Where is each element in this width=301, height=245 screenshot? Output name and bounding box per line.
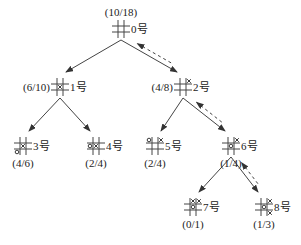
x-mark-icon bbox=[268, 211, 272, 215]
x-mark-icon bbox=[268, 199, 272, 203]
board-node-4 bbox=[87, 137, 105, 155]
x-mark-icon bbox=[94, 144, 98, 148]
board-node-3 bbox=[14, 137, 32, 155]
backprop-arrow-8-6 bbox=[242, 163, 258, 184]
o-mark-icon bbox=[15, 150, 19, 154]
board-node-2 bbox=[174, 78, 192, 96]
x-mark-icon bbox=[21, 144, 25, 148]
x-mark-icon bbox=[235, 138, 239, 142]
node-name-1: 1号 bbox=[70, 81, 87, 93]
board-node-1 bbox=[51, 78, 69, 96]
edge-2-5 bbox=[161, 98, 183, 131]
node-name-4: 4号 bbox=[106, 140, 123, 152]
edge-1-4 bbox=[60, 98, 90, 131]
o-mark-icon bbox=[229, 144, 233, 148]
board-node-0 bbox=[112, 20, 130, 38]
node-name-8: 8号 bbox=[274, 201, 291, 213]
node-name-6: 6号 bbox=[241, 140, 258, 152]
node-score-7: (0/1) bbox=[182, 218, 203, 230]
node-name-3: 3号 bbox=[33, 140, 50, 152]
edge-1-3 bbox=[29, 98, 60, 131]
node-name-0: 0号 bbox=[131, 23, 148, 35]
backprop-arrow-2-0 bbox=[137, 44, 171, 63]
node-score-6: (1/4) bbox=[220, 157, 241, 169]
game-tree-canvas bbox=[0, 0, 301, 245]
edge-2-6 bbox=[183, 98, 225, 131]
board-node-8 bbox=[255, 198, 273, 216]
node-score-1: (6/10) bbox=[23, 81, 50, 93]
edge-0-2 bbox=[121, 40, 177, 72]
edge-0-1 bbox=[66, 40, 121, 72]
node-name-7: 7号 bbox=[203, 201, 220, 213]
node-name-5: 5号 bbox=[165, 140, 182, 152]
board-node-7 bbox=[184, 198, 202, 216]
node-score-5: (2/4) bbox=[144, 157, 165, 169]
node-score-4: (2/4) bbox=[85, 157, 106, 169]
o-mark-icon bbox=[147, 138, 151, 142]
x-mark-icon bbox=[58, 85, 62, 89]
node-score-0: (10/18) bbox=[105, 6, 137, 18]
node-score-2: (4/8) bbox=[152, 81, 173, 93]
x-mark-icon bbox=[191, 199, 195, 203]
node-name-2: 2号 bbox=[193, 81, 210, 93]
x-mark-icon bbox=[197, 199, 201, 203]
o-mark-icon bbox=[191, 205, 195, 209]
o-mark-icon bbox=[88, 144, 92, 148]
x-mark-icon bbox=[187, 79, 191, 83]
o-mark-icon bbox=[262, 205, 266, 209]
tree-edges bbox=[29, 40, 258, 192]
board-node-5 bbox=[146, 137, 164, 155]
node-score-3: (4/6) bbox=[12, 157, 33, 169]
tree-boards bbox=[14, 20, 273, 216]
node-score-8: (1/3) bbox=[253, 218, 274, 230]
board-node-6 bbox=[222, 137, 240, 155]
x-mark-icon bbox=[159, 138, 163, 142]
